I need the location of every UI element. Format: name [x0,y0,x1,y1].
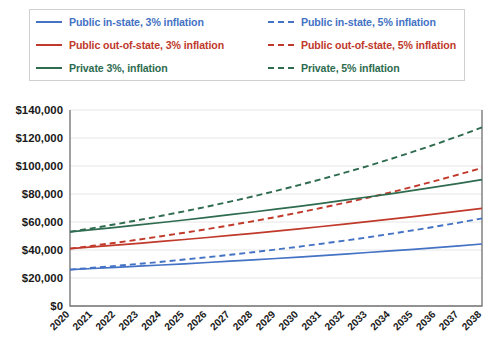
legend-swatch-dashed [268,44,294,46]
series-line-public-out-of-state-5-inflation [70,168,482,249]
legend-label: Public out-of-state, 5% inflation [301,39,456,51]
x-axis-tick-label: 2023 [116,308,140,332]
legend-label: Public in-state, 5% inflation [301,16,436,28]
x-axis-tick-label: 2027 [208,308,232,332]
x-axis-tick-label: 2034 [368,308,392,332]
plot-border [70,110,482,306]
legend-label: Public in-state, 3% inflation [69,16,204,28]
legend-swatch-solid [36,44,62,46]
series-line-public-in-state-3-inflation [70,244,482,270]
plot-area: $0$20,000$40,000$60,000$80,000$100,000$1… [0,88,494,355]
chart-svg: $0$20,000$40,000$60,000$80,000$100,000$1… [0,88,494,355]
x-axis-tick-label: 2036 [414,308,438,332]
legend-public-outofstate-3[interactable]: Public out-of-state, 3% inflation [36,39,268,51]
x-axis-tick-label: 2033 [345,308,369,332]
legend-label: Private 3%, inflation [69,62,168,74]
legend-private-5[interactable]: Private, 5% inflation [268,62,472,74]
x-axis-tick-label: 2024 [139,308,163,332]
series-line-private-3-inflation [70,180,482,232]
y-axis-tick-label: $100,000 [15,160,63,172]
legend-public-instate-5[interactable]: Public in-state, 5% inflation [268,16,472,28]
x-axis-tick-label: 2022 [93,308,117,332]
y-axis-tick-label: $40,000 [22,244,63,256]
legend-label: Public out-of-state, 3% inflation [69,39,224,51]
legend-swatch-dashed [268,21,294,23]
x-axis-tick-label: 2032 [322,308,346,332]
x-axis-tick-label: 2035 [391,308,415,332]
legend-label: Private, 5% inflation [301,62,400,74]
y-axis-tick-label: $120,000 [15,132,63,144]
x-axis-tick-label: 2025 [162,308,186,332]
legend-public-outofstate-5[interactable]: Public out-of-state, 5% inflation [268,39,472,51]
x-axis-tick-label: 2029 [254,308,278,332]
legend-private-3[interactable]: Private 3%, inflation [36,62,268,74]
y-axis-tick-label: $20,000 [22,272,63,284]
x-axis-tick-label: 2031 [299,308,323,332]
x-axis-tick-label: 2037 [437,308,461,332]
legend-public-instate-3[interactable]: Public in-state, 3% inflation [36,16,268,28]
y-axis-tick-label: $60,000 [22,216,63,228]
x-axis-tick-label: 2030 [276,308,300,332]
legend-swatch-dashed [268,67,294,69]
y-axis-tick-label: $80,000 [22,188,63,200]
legend-swatch-solid [36,21,62,23]
x-axis-tick-label: 2038 [460,308,484,332]
x-axis-tick-label: 2028 [231,308,255,332]
chart-legend: Public in-state, 3% inflationPublic in-s… [29,9,465,81]
x-axis-tick-label: 2021 [70,308,94,332]
x-axis-tick-label: 2026 [185,308,209,332]
tuition-projection-chart: Public in-state, 3% inflationPublic in-s… [0,0,494,355]
x-axis-tick-label: 2020 [48,308,72,332]
y-axis-tick-label: $140,000 [15,104,63,116]
legend-swatch-solid [36,67,62,69]
